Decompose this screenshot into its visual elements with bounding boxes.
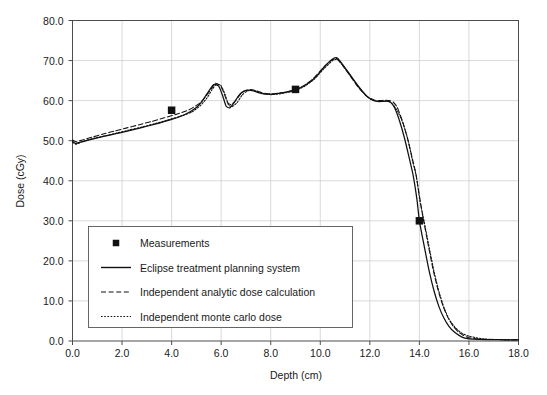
x-tick-label: 0.0 — [65, 347, 80, 359]
x-tick-label: 18.0 — [508, 347, 529, 359]
y-tick-label: 40.0 — [43, 175, 64, 187]
y-tick-label: 10.0 — [43, 295, 64, 307]
x-tick-label: 16.0 — [459, 347, 480, 359]
x-tick-label: 4.0 — [164, 347, 179, 359]
x-tick-label: 6.0 — [214, 347, 229, 359]
legend-marker-icon — [113, 240, 120, 247]
x-axis-title: Depth (cm) — [270, 369, 322, 381]
y-tick-label: 60.0 — [43, 95, 64, 107]
y-axis-title: Dose (cGy) — [14, 154, 26, 207]
legend-item-label: Independent monte carlo dose — [140, 311, 282, 323]
y-axis-tick-labels: 0.010.020.030.040.050.060.070.080.0 — [43, 15, 64, 348]
chart-canvas: 0.02.04.06.08.010.012.014.016.018.0 0.01… — [0, 0, 547, 395]
measurement-marker — [292, 86, 300, 94]
legend-item-label: Measurements — [140, 237, 209, 249]
x-tick-label: 10.0 — [310, 347, 331, 359]
dose-depth-chart: 0.02.04.06.08.010.012.014.016.018.0 0.01… — [0, 0, 547, 395]
legend-item-label: Eclipse treatment planning system — [140, 262, 300, 274]
x-tick-label: 12.0 — [360, 347, 381, 359]
y-tick-label: 80.0 — [43, 15, 64, 27]
y-tick-label: 0.0 — [49, 335, 64, 347]
measurement-marker — [416, 217, 424, 225]
chart-legend: MeasurementsEclipse treatment planning s… — [89, 227, 353, 328]
legend-item-label: Independent analytic dose calculation — [140, 286, 315, 298]
y-tick-label: 30.0 — [43, 215, 64, 227]
y-tick-label: 70.0 — [43, 55, 64, 67]
x-tick-label: 2.0 — [115, 347, 130, 359]
chart-background — [0, 0, 547, 395]
x-tick-label: 14.0 — [409, 347, 430, 359]
y-tick-label: 50.0 — [43, 135, 64, 147]
x-tick-label: 8.0 — [263, 347, 278, 359]
measurement-marker — [168, 106, 176, 114]
y-tick-label: 20.0 — [43, 255, 64, 267]
